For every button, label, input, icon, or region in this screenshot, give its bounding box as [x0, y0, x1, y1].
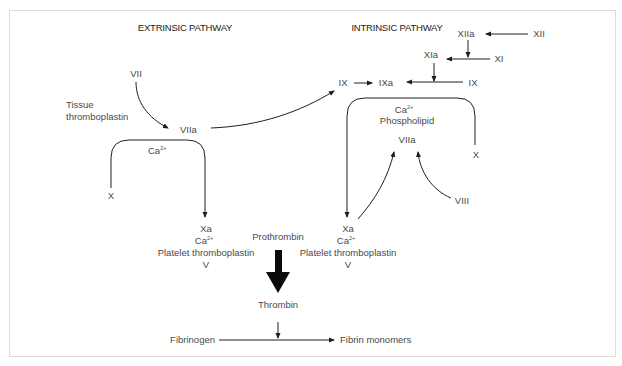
- extrinsic-factor-v-label: V: [203, 259, 210, 270]
- viia-to-ix-arrow: [211, 91, 334, 128]
- intrinsic-factor-x-label: X: [473, 149, 480, 160]
- phospholipid-label: Phospholipid: [380, 115, 434, 126]
- extrinsic-ca-label: Ca2+: [148, 145, 166, 156]
- fibrin-monomers-label: Fibrin monomers: [340, 334, 412, 345]
- factor-ix-right-label: IX: [469, 77, 479, 88]
- prothrombin-label: Prothrombin: [252, 231, 304, 242]
- extrinsic-platelet-thromboplastin-label: Platelet thromboplastin: [158, 247, 255, 258]
- vii-to-viia-arrow: [136, 82, 168, 128]
- factor-xi-label: XI: [495, 53, 504, 64]
- viii-to-viia-arrow: [418, 152, 451, 198]
- intrinsic-pathway-heading: INTRINSIC PATHWAY: [351, 22, 443, 33]
- intrinsic-viia-label: VIIa: [399, 134, 417, 145]
- xa-feedback-arrow: [358, 152, 394, 219]
- coagulation-cascade-diagram: EXTRINSIC PATHWAY INTRINSIC PATHWAY VII …: [0, 0, 622, 366]
- fibrinogen-label: Fibrinogen: [170, 334, 215, 345]
- tissue-thromboplastin-label-line1: Tissue: [66, 99, 94, 110]
- factor-vii-label: VII: [130, 68, 142, 79]
- thrombin-label: Thrombin: [258, 299, 298, 310]
- factor-ix-left-label: IX: [339, 77, 349, 88]
- extrinsic-factor-x-label: X: [108, 190, 115, 201]
- intrinsic-ca-label: Ca2+: [395, 104, 413, 115]
- intrinsic-platelet-thromboplastin-label: Platelet thromboplastin: [300, 247, 397, 258]
- extrinsic-pathway-heading: EXTRINSIC PATHWAY: [138, 22, 233, 33]
- extrinsic-xa-label: Xa: [200, 223, 212, 234]
- intrinsic-complex-ca-label: Ca2+: [337, 235, 355, 246]
- factor-xiia-label: XIIa: [458, 28, 476, 39]
- intrinsic-xa-label: Xa: [342, 223, 354, 234]
- extrinsic-complex-ca-label: Ca2+: [195, 235, 213, 246]
- factor-xii-label: XII: [533, 28, 545, 39]
- tissue-thromboplastin-label-line2: thromboplastin: [66, 111, 128, 122]
- factor-xia-label: XIa: [424, 49, 439, 60]
- factor-viii-label: VIII: [455, 195, 469, 206]
- factor-ixa-label: IXa: [379, 77, 394, 88]
- factor-viia-label: VIIa: [180, 124, 198, 135]
- prothrombin-to-thrombin-arrow: [266, 250, 290, 293]
- intrinsic-factor-v-label: V: [345, 259, 352, 270]
